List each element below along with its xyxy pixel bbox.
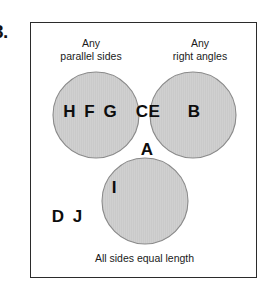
venn-diagram-box: Any parallel sides Any right angles All … bbox=[30, 22, 257, 278]
set-label-any-parallel-sides: Any parallel sides bbox=[39, 37, 143, 63]
region-label-outside-all: D J bbox=[41, 208, 95, 225]
region-label-parallel-and-equal-sides: I bbox=[103, 179, 125, 196]
set-label-any-right-angles: Any right angles bbox=[148, 37, 252, 63]
region-label-right-angles-only: B bbox=[174, 103, 214, 120]
region-label-parallel-and-right-angles: CE bbox=[125, 103, 171, 120]
figure-page: 3. Any parallel sides Any right angles A… bbox=[0, 0, 270, 295]
question-number: 3. bbox=[0, 22, 23, 41]
region-label-parallel-only: H F G bbox=[53, 103, 129, 120]
region-label-all-three: A bbox=[127, 141, 167, 158]
set-label-all-sides-equal-length: All sides equal length bbox=[31, 252, 258, 265]
circle-all-sides-equal-length bbox=[102, 158, 188, 244]
